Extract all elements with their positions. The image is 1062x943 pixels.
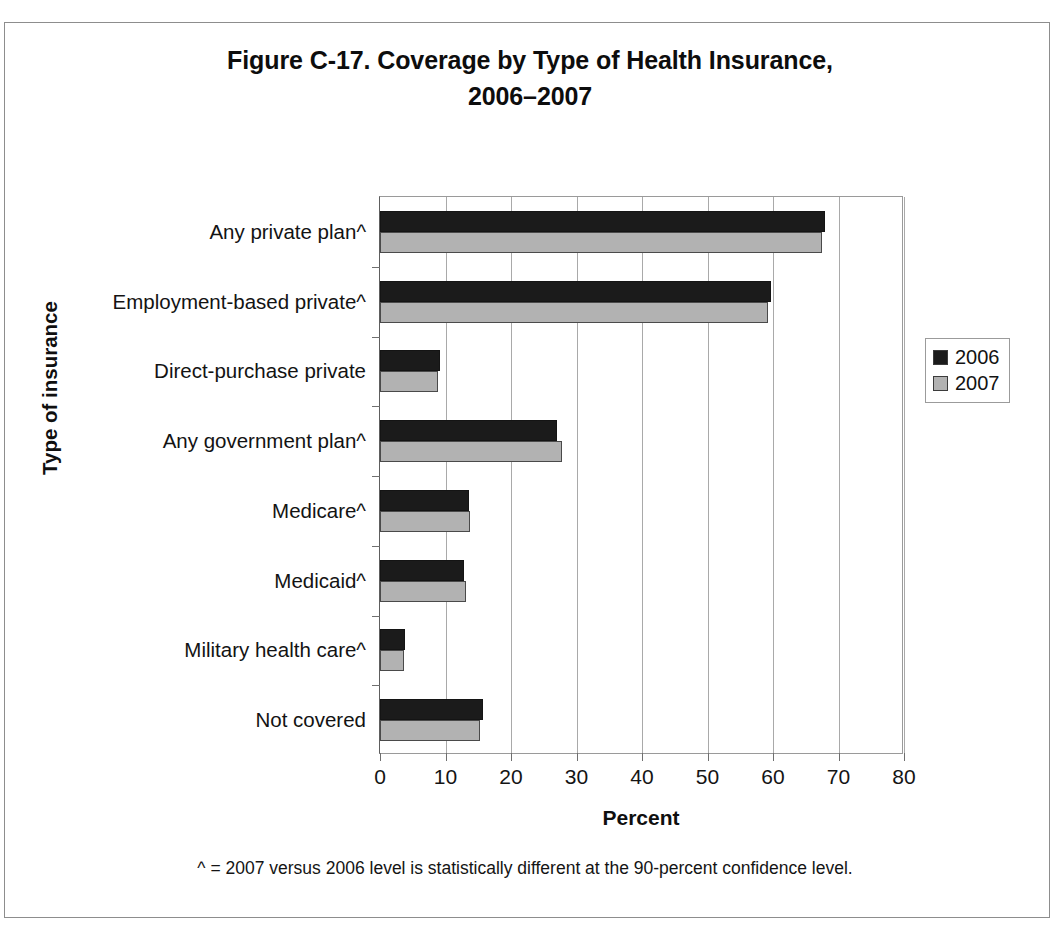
bar-group (380, 281, 902, 323)
chart-legend: 20062007 (925, 338, 1010, 403)
bar-group (380, 560, 902, 602)
x-axis-tick (577, 753, 578, 761)
bar-group (380, 350, 902, 392)
bar-2007 (380, 581, 466, 602)
figure-title: Figure C-17. Coverage by Type of Health … (80, 42, 980, 114)
bar-group (380, 211, 902, 253)
legend-item-label: 2006 (955, 347, 1000, 367)
x-axis-tick-label: 40 (630, 765, 653, 789)
figure-title-line-2: 2006–2007 (80, 78, 980, 114)
legend-item-2006: 2006 (933, 344, 1000, 370)
bar-group (380, 699, 902, 741)
x-axis-tick (839, 753, 840, 761)
y-axis-category-label: Employment-based private^ (113, 290, 366, 314)
bar-2006 (380, 490, 469, 511)
y-axis-tick (372, 546, 380, 547)
y-axis-category-label: Medicaid^ (274, 569, 366, 593)
bar-2007 (380, 720, 480, 741)
y-axis-tick (372, 267, 380, 268)
y-axis-tick (372, 685, 380, 686)
y-axis-category-label: Medicare^ (272, 499, 366, 523)
x-axis-title: Percent (379, 806, 903, 830)
bar-group (380, 420, 902, 462)
x-axis-tick (511, 753, 512, 761)
x-axis-tick (380, 753, 381, 761)
bar-2007 (380, 441, 562, 462)
bar-2007 (380, 232, 822, 253)
y-axis-category-label: Direct-purchase private (154, 359, 366, 383)
bar-2006 (380, 350, 440, 371)
y-axis-category-label: Any government plan^ (163, 429, 366, 453)
bar-2007 (380, 371, 438, 392)
y-axis-tick (372, 406, 380, 407)
bar-2006 (380, 629, 405, 650)
x-axis-tick (773, 753, 774, 761)
x-axis-tick-label: 80 (892, 765, 915, 789)
y-axis-category-label: Not covered (255, 708, 366, 732)
y-axis-category-label: Any private plan^ (209, 220, 366, 244)
x-axis-tick-label: 0 (374, 765, 386, 789)
x-axis-tick-label: 60 (761, 765, 784, 789)
figure-container: Figure C-17. Coverage by Type of Health … (0, 0, 1062, 943)
y-axis-tick (372, 616, 380, 617)
bar-2007 (380, 302, 768, 323)
y-axis-tick (372, 337, 380, 338)
figure-title-line-1: Figure C-17. Coverage by Type of Health … (80, 42, 980, 78)
legend-swatch-icon (933, 376, 948, 391)
x-axis-tick (642, 753, 643, 761)
bar-2006 (380, 281, 771, 302)
legend-item-2007: 2007 (933, 370, 1000, 396)
bar-group (380, 490, 902, 532)
figure-footnote: ^ = 2007 versus 2006 level is statistica… (60, 858, 990, 879)
bar-2006 (380, 560, 464, 581)
bar-2006 (380, 211, 825, 232)
bar-2007 (380, 650, 404, 671)
bar-2006 (380, 699, 483, 720)
gridline (904, 197, 905, 753)
x-axis-tick-label: 10 (434, 765, 457, 789)
legend-swatch-icon (933, 350, 948, 365)
bar-group (380, 629, 902, 671)
y-axis-title: Type of insurance (38, 301, 62, 475)
x-axis-tick (904, 753, 905, 761)
x-axis-tick-label: 20 (499, 765, 522, 789)
bar-2007 (380, 511, 470, 532)
x-axis-tick-label: 30 (565, 765, 588, 789)
x-axis-tick-label: 50 (696, 765, 719, 789)
x-axis-tick (446, 753, 447, 761)
bar-2006 (380, 420, 557, 441)
legend-item-label: 2007 (955, 373, 1000, 393)
x-axis-tick (708, 753, 709, 761)
x-axis-tick-label: 70 (827, 765, 850, 789)
y-axis-category-label: Military health care^ (184, 638, 366, 662)
y-axis-tick (372, 476, 380, 477)
plot-area: 01020304050607080Any private plan^Employ… (379, 196, 903, 754)
